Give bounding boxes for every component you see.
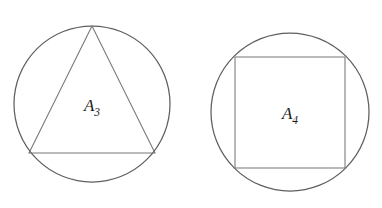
area-label-square-subscript: 4: [292, 114, 298, 126]
figure-canvas: A3 A4: [0, 0, 382, 208]
area-label-triangle: A3: [83, 96, 100, 118]
area-label-triangle-subscript: 3: [93, 106, 100, 118]
panel-triangle: A3: [14, 26, 170, 182]
inscribed-triangle: [29, 26, 155, 153]
panel-square: A4: [211, 33, 369, 191]
area-label-triangle-base: A: [83, 96, 95, 115]
area-label-square: A4: [281, 104, 298, 126]
area-label-square-base: A: [281, 104, 293, 123]
inscribed-polygons-figure: A3 A4: [0, 0, 382, 208]
